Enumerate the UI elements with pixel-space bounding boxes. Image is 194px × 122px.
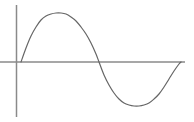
sine-wave-plot	[0, 0, 194, 122]
plot-background	[0, 0, 194, 122]
figure-canvas	[0, 0, 194, 122]
